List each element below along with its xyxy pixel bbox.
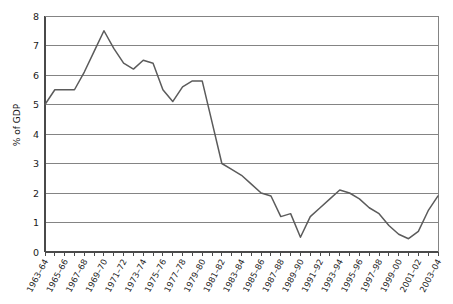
data-series-line (45, 31, 438, 239)
y-axis-tick-label: 0 (33, 247, 39, 258)
y-axis-tick-label: 6 (33, 70, 39, 81)
y-axis-tick-label: 4 (33, 129, 39, 140)
y-axis-tick-label: 3 (33, 158, 39, 169)
x-axis-tick-labels: 1963–641965–661967–681969–701971–721973–… (24, 257, 443, 294)
x-axis-tick-marks (45, 252, 438, 256)
line-chart-plot: 012345678 1963–641965–661967–681969–7019… (0, 0, 453, 304)
y-axis-tick-labels: 012345678 (33, 11, 39, 258)
chart-figure: % of GDP 012345678 1963–641965–661967–68… (0, 0, 453, 304)
gridlines (45, 16, 438, 252)
y-axis-tick-label: 7 (33, 40, 39, 51)
y-axis-tick-label: 8 (33, 11, 39, 22)
y-axis-tick-label: 1 (33, 217, 39, 228)
y-axis-label: % of GDP (12, 82, 22, 168)
y-axis-tick-label: 2 (33, 188, 39, 199)
y-axis-tick-label: 5 (33, 99, 39, 110)
